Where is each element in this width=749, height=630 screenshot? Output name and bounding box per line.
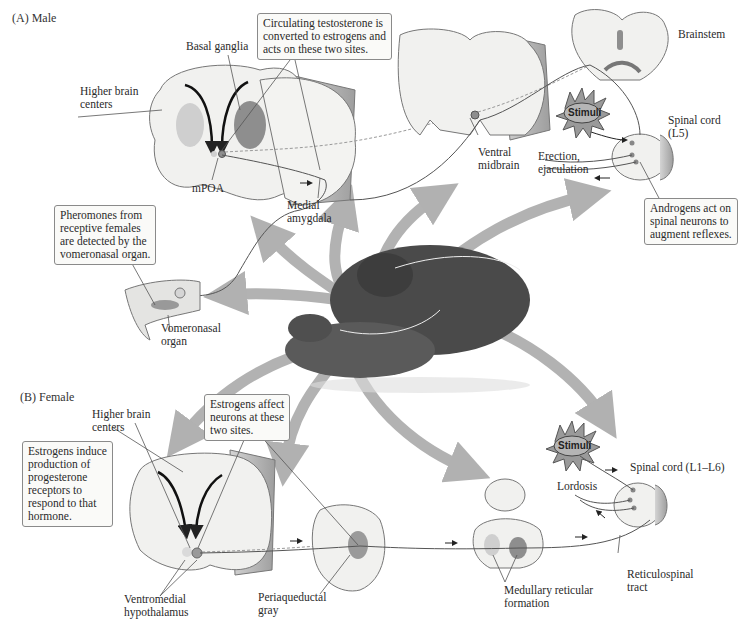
label-mpoa: mPOA [192,182,224,195]
female-medulla-slice [473,479,543,568]
callout-estrogens-induce: Estrogens induce production of progester… [22,441,113,527]
callout-androgens: Androgens act on spinal neurons to augme… [644,198,738,245]
label-periaqueductal-gray: Periaqueductal gray [258,591,326,617]
male-brainstem [572,10,668,80]
label-medullary-reticular-formation: Medullary reticular formation [504,584,593,610]
label-erection-ejaculation: Erection, ejaculation [538,150,588,176]
section-label-female: (B) Female [20,390,74,405]
label-reticulospinal-tract: Reticulospinal tract [627,568,693,594]
stimuli-label-male: Stimuli [568,107,601,118]
label-brainstem: Brainstem [678,28,725,41]
stimuli-label-female: Stimuli [558,440,591,451]
callout-pheromones: Pheromones from receptive females are de… [54,205,156,265]
diagram-stage: (A) Male (B) Female Circulating testoste… [0,0,749,630]
label-ventromedial-hypothalamus: Ventromedial hypothalamus [124,593,189,619]
label-basal-ganglia: Basal ganglia [186,40,248,53]
label-spinal-cord-l1-l6: Spinal cord (L1–L6) [630,461,725,474]
label-higher-brain-centers-female: Higher brain centers [92,408,150,434]
section-label-male: (A) Male [12,11,56,26]
label-spinal-cord-l5: Spinal cord (L5) [668,114,721,140]
label-vomeronasal-organ: Vomeronasal organ [161,322,221,348]
callout-testosterone: Circulating testosterone is converted to… [257,13,392,60]
mating-rats [285,245,530,393]
female-spinal-cord [614,483,667,527]
callout-estrogens-affect: Estrogens affect neurons at these two si… [204,394,290,441]
label-medial-amygdala: Medial amygdala [287,199,332,225]
label-lordosis: Lordosis [557,480,597,493]
label-higher-brain-centers-male: Higher brain centers [80,85,138,111]
label-ventral-midbrain: Ventral midbrain [478,146,520,172]
